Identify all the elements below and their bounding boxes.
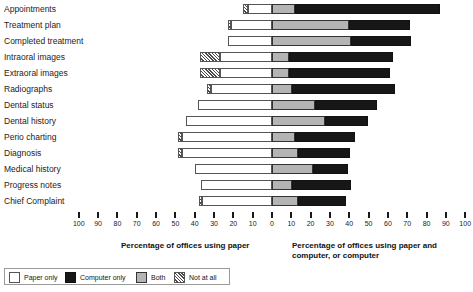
axis-tick-label-right-30: 30: [320, 219, 340, 228]
chart-row: Appointments: [0, 1, 473, 17]
segment-computer-only: [351, 36, 411, 46]
segment-computer-only: [289, 52, 392, 62]
axis-tick-label-right-80: 80: [417, 219, 437, 228]
segment-paper-only: [195, 164, 272, 174]
axis-tick-label-left-20: 20: [223, 219, 243, 228]
x-axis: 1009080706050403020100102030405060708090…: [0, 212, 473, 236]
segment-both: [272, 148, 298, 158]
axis-tick: [252, 212, 254, 218]
axis-tick-label-left-30: 30: [204, 219, 224, 228]
legend-swatch-hatched: [174, 272, 185, 283]
axis-tick: [116, 212, 118, 218]
row-bars: [0, 129, 473, 145]
row-bars: [0, 49, 473, 65]
segment-paper-only: [228, 36, 272, 46]
legend-item-paper-only[interactable]: Paper only: [9, 271, 57, 284]
axis-tick-label-left-10: 10: [243, 219, 263, 228]
axis-tick: [155, 212, 157, 218]
row-bars: [0, 33, 473, 49]
segment-not-at-all: [200, 68, 220, 78]
chart-row: Intraoral images: [0, 49, 473, 65]
segment-computer-only: [298, 196, 346, 206]
axis-tick: [368, 212, 370, 218]
axis-tick: [426, 212, 428, 218]
segment-both: [272, 132, 295, 142]
row-bars: [0, 97, 473, 113]
axis-tick-label-right-70: 70: [397, 219, 417, 228]
axis-tick: [290, 212, 292, 218]
segment-paper-only: [248, 4, 272, 14]
segment-paper-only: [182, 148, 272, 158]
legend-item-not-at-all[interactable]: Not at all: [174, 271, 217, 284]
row-bars: [0, 17, 473, 33]
segment-both: [272, 36, 351, 46]
axis-tick: [232, 212, 234, 218]
segment-paper-only: [202, 196, 272, 206]
row-bars: [0, 113, 473, 129]
segment-computer-only: [295, 132, 355, 142]
axis-tick: [271, 212, 273, 218]
segment-paper-only: [220, 52, 272, 62]
axis-tick-label-right-40: 40: [339, 219, 359, 228]
axis-tick: [136, 212, 138, 218]
axis-tick: [194, 212, 196, 218]
legend-swatch-gray: [136, 272, 147, 283]
axis-tick-label-left-40: 40: [185, 219, 205, 228]
axis-tick-label-zero: 0: [262, 219, 282, 228]
legend-label: Paper only: [24, 273, 57, 282]
segment-paper-only: [220, 68, 272, 78]
axis-tick: [445, 212, 447, 218]
segment-computer-only: [298, 148, 350, 158]
segment-computer-only: [313, 164, 349, 174]
segment-both: [272, 84, 292, 94]
segment-both: [272, 116, 325, 126]
axis-tick-label-left-100: 100: [69, 219, 89, 228]
segment-computer-only: [325, 116, 368, 126]
axis-tick: [406, 212, 408, 218]
segment-paper-only: [198, 100, 272, 110]
segment-paper-only: [211, 84, 272, 94]
row-bars: [0, 193, 473, 209]
row-bars: [0, 161, 473, 177]
segment-both: [272, 52, 289, 62]
axis-tick-label-right-50: 50: [359, 219, 379, 228]
chart-row: Progress notes: [0, 177, 473, 193]
segment-both: [272, 20, 349, 30]
axis-tick-label-right-10: 10: [281, 219, 301, 228]
legend-item-both[interactable]: Both: [136, 271, 165, 284]
axis-tick-label-left-70: 70: [127, 219, 147, 228]
axis-tick: [464, 212, 466, 218]
segment-computer-only: [315, 100, 378, 110]
axis-tick-label-left-90: 90: [88, 219, 108, 228]
segment-paper-only: [182, 132, 272, 142]
legend-label: Both: [151, 273, 165, 282]
legend-swatch-black: [65, 272, 76, 283]
segment-both: [272, 68, 289, 78]
segment-both: [272, 196, 298, 206]
chart-row: Medical history: [0, 161, 473, 177]
segment-both: [272, 100, 315, 110]
axis-tick: [387, 212, 389, 218]
segment-computer-only: [295, 4, 440, 14]
axis-tick-label-right-90: 90: [436, 219, 456, 228]
segment-both: [272, 4, 295, 14]
segment-computer-only: [292, 84, 394, 94]
segment-computer-only: [289, 68, 389, 78]
chart-row: Dental status: [0, 97, 473, 113]
axis-tick-label-left-60: 60: [146, 219, 166, 228]
chart-row: Dental history: [0, 113, 473, 129]
axis-tick: [329, 212, 331, 218]
chart-row: Chief Complaint: [0, 193, 473, 209]
legend-label: Not at all: [189, 273, 217, 282]
axis-tick: [78, 212, 80, 218]
row-bars: [0, 65, 473, 81]
chart-row: Perio charting: [0, 129, 473, 145]
chart-row: Radiographs: [0, 81, 473, 97]
segment-paper-only: [201, 180, 272, 190]
row-bars: [0, 81, 473, 97]
legend-item-computer-only[interactable]: Computer only: [65, 271, 126, 284]
x-axis-title-right: Percentage of offices using paper and co…: [292, 241, 467, 261]
x-axis-title-left: Percentage of offices using paper: [121, 241, 291, 251]
segment-paper-only: [231, 20, 272, 30]
segment-both: [272, 164, 313, 174]
